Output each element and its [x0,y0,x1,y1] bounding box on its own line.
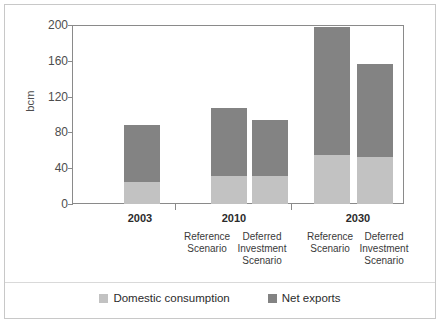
legend-label: Net exports [282,292,341,304]
bars-layer [72,25,404,204]
legend-divider [5,282,435,283]
legend-swatch-icon [99,294,108,303]
legend-item-domestic-consumption[interactable]: Domestic consumption [99,292,229,304]
bar-2003[interactable] [124,125,160,204]
bar-2010-deferred-investment-scenario[interactable] [252,120,288,204]
x-group-label-2010: 2010 [196,212,272,224]
bar-segment-domestic-consumption [124,182,160,204]
x-group-label-2030: 2030 [320,212,396,224]
y-tick-label-120: 120 [32,90,68,104]
bar-segment-domestic-consumption [252,176,288,204]
y-axis-ticks: 200 160 120 80 40 0 [26,25,68,204]
chart-legend: Domestic consumption Net exports [0,292,440,304]
bar-2030-reference-scenario[interactable] [314,27,350,204]
bar-segment-net-exports [211,108,247,176]
bar-segment-net-exports [314,27,350,155]
x-axis-separator-1 [175,204,176,210]
y-tick-mark-0 [68,204,73,205]
bar-segment-domestic-consumption [314,155,350,204]
bar-2030-deferred-investment-scenario[interactable] [357,64,393,204]
x-sub-label-2010-deferred: Deferred Investment Scenario [230,231,294,267]
bar-segment-net-exports [252,120,288,177]
chart-figure: bcm 200 160 120 80 40 0 [0,0,440,323]
bar-segment-domestic-consumption [357,157,393,205]
legend-item-net-exports[interactable]: Net exports [268,292,341,304]
y-tick-label-40: 40 [32,161,68,175]
bar-segment-domestic-consumption [211,176,247,204]
legend-label: Domestic consumption [113,292,229,304]
x-axis-separator-2 [291,204,292,210]
bar-segment-net-exports [357,64,393,156]
x-sub-label-2030-deferred: Deferred Investment Scenario [352,231,416,267]
y-tick-label-200: 200 [32,18,68,32]
y-tick-label-0: 0 [32,197,68,211]
y-tick-label-80: 80 [32,125,68,139]
bar-2010-reference-scenario[interactable] [211,108,247,204]
legend-swatch-icon [268,294,277,303]
bar-segment-net-exports [124,125,160,181]
x-group-label-2003: 2003 [102,212,178,224]
y-tick-label-160: 160 [32,54,68,68]
